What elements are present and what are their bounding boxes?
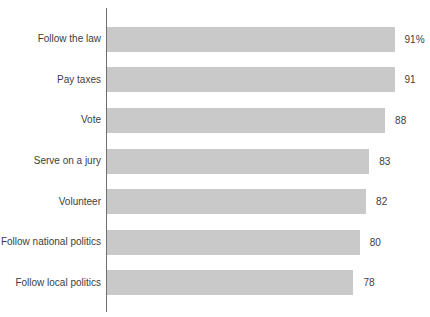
bar-track: 83 xyxy=(107,149,423,174)
category-label: Serve on a jury xyxy=(0,155,107,167)
value-label: 82 xyxy=(376,196,387,207)
category-label: Follow local politics xyxy=(0,277,107,289)
category-label: Pay taxes xyxy=(0,74,107,86)
bar-track: 80 xyxy=(107,230,423,255)
category-label: Vote xyxy=(0,114,107,126)
bar xyxy=(107,67,395,92)
value-label: 78 xyxy=(363,277,374,288)
bar-row: Serve on a jury 83 xyxy=(0,141,430,182)
bar-track: 82 xyxy=(107,189,423,214)
bar-track: 91 xyxy=(107,67,423,92)
value-label: 91 xyxy=(405,74,416,85)
bar xyxy=(107,189,366,214)
bar-row: Follow local politics 78 xyxy=(0,263,430,304)
value-label: 88 xyxy=(395,115,406,126)
value-label: 83 xyxy=(379,156,390,167)
category-label: Follow national politics xyxy=(0,236,107,248)
bar-track: 91% xyxy=(107,27,423,52)
bar-track: 88 xyxy=(107,108,423,133)
bar-rows: Follow the law 91% Pay taxes 91 Vote 88 … xyxy=(0,19,430,303)
bar-row: Follow the law 91% xyxy=(0,19,430,60)
bar xyxy=(107,230,360,255)
category-label: Follow the law xyxy=(0,33,107,45)
bar-row: Pay taxes 91 xyxy=(0,60,430,101)
bar xyxy=(107,27,395,52)
category-label: Volunteer xyxy=(0,196,107,208)
bar-row: Volunteer 82 xyxy=(0,181,430,222)
bar-track: 78 xyxy=(107,270,423,295)
value-label: 91% xyxy=(405,34,425,45)
bar-chart: Follow the law 91% Pay taxes 91 Vote 88 … xyxy=(0,0,430,317)
bar-row: Vote 88 xyxy=(0,100,430,141)
value-label: 80 xyxy=(370,237,381,248)
bar xyxy=(107,270,353,295)
bar xyxy=(107,149,369,174)
bar-row: Follow national politics 80 xyxy=(0,222,430,263)
bar xyxy=(107,108,385,133)
